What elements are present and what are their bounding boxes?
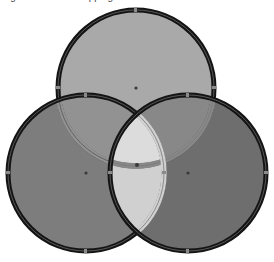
center-dot-left <box>84 171 87 174</box>
center-dot-top <box>134 86 137 89</box>
center-dot-right <box>186 171 189 174</box>
midpoint-handle <box>135 163 139 167</box>
venn-diagram <box>0 0 274 262</box>
